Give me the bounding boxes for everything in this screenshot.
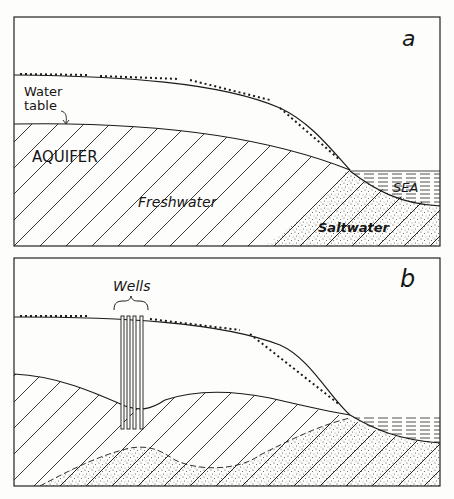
wells-label: Wells (113, 278, 151, 294)
panel-b (14, 296, 440, 486)
water-table-label-line1: Water (24, 84, 63, 99)
panel-a-letter: a (402, 26, 415, 51)
saltwater-label: Saltwater (318, 220, 391, 235)
diagram-canvas: a Water table AQUIFER Freshwater SEA Sal… (0, 0, 454, 499)
panel-b-letter: b (400, 265, 415, 293)
aquifer-label: AQUIFER (32, 148, 98, 166)
water-table-arrow-icon (61, 111, 69, 124)
wells-brace (114, 296, 148, 310)
sea-label: SEA (393, 180, 418, 195)
water-table-label-line2: table (24, 98, 57, 113)
freshwater-label: Freshwater (138, 194, 218, 210)
